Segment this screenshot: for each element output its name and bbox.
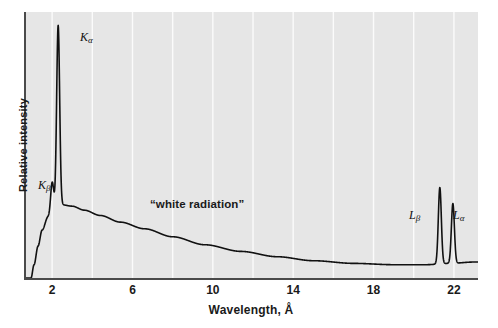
annotation-layer: Kα Kβ Lβ Lα <box>24 12 478 278</box>
x-tick-label: 14 <box>273 283 313 297</box>
l-beta-subscript: β <box>416 213 420 223</box>
x-tick-label: 2 <box>32 283 72 297</box>
x-tick-label: 18 <box>354 283 394 297</box>
k-alpha-symbol: K <box>80 30 88 44</box>
k-beta-symbol: K <box>38 178 46 192</box>
x-axis-line <box>24 278 478 280</box>
peak-label-l-alpha: Lα <box>453 208 464 223</box>
plot-area: Kα Kβ Lβ Lα <box>24 12 478 278</box>
k-beta-subscript: β <box>46 183 50 193</box>
x-tick-label: 22 <box>434 283 474 297</box>
peak-label-k-beta: Kβ <box>38 178 51 193</box>
l-beta-symbol: L <box>409 208 416 222</box>
white-radiation-annotation: “white radiation” <box>150 198 244 210</box>
peak-label-l-beta: Lβ <box>409 208 420 223</box>
x-tick-label: 6 <box>112 283 152 297</box>
l-alpha-symbol: L <box>453 208 460 222</box>
x-tick-label: 10 <box>193 283 233 297</box>
y-axis-title: Relative intensity <box>14 12 32 278</box>
x-axis-title: Wavelength, Å <box>24 303 478 317</box>
peak-label-k-alpha: Kα <box>80 30 93 45</box>
l-alpha-subscript: α <box>460 213 465 223</box>
k-alpha-subscript: α <box>88 35 93 45</box>
xray-spectrum-figure: Kα Kβ Lβ Lα “white radiation” Relative i… <box>0 0 498 328</box>
